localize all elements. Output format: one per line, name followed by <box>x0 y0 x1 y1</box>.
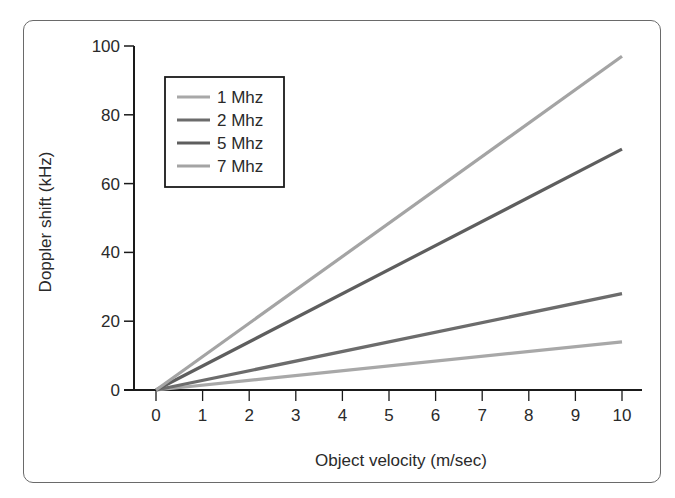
y-axis-label: Doppler shift (kHz) <box>36 152 55 293</box>
y-tick-label: 0 <box>111 381 120 400</box>
x-tick-label: 5 <box>384 406 393 425</box>
legend-label: 5 Mhz <box>217 134 263 153</box>
x-tick-label: 10 <box>613 406 632 425</box>
legend-label: 2 Mhz <box>217 111 263 130</box>
x-axis-label: Object velocity (m/sec) <box>315 451 487 470</box>
x-tick-label: 2 <box>244 406 253 425</box>
y-tick-label: 20 <box>101 312 120 331</box>
legend-label: 7 Mhz <box>217 157 263 176</box>
x-tick-label: 8 <box>524 406 533 425</box>
x-tick-label: 9 <box>571 406 580 425</box>
y-tick-label: 60 <box>101 175 120 194</box>
x-tick-label: 7 <box>477 406 486 425</box>
x-tick-label: 4 <box>338 406 347 425</box>
series-line-1-mhz <box>156 342 622 390</box>
doppler-chart: 020406080100012345678910Object velocity … <box>0 0 675 498</box>
x-tick-label: 1 <box>198 406 207 425</box>
x-tick-label: 3 <box>291 406 300 425</box>
y-tick-label: 80 <box>101 106 120 125</box>
y-tick-label: 40 <box>101 243 120 262</box>
x-tick-label: 0 <box>151 406 160 425</box>
legend-label: 1 Mhz <box>217 88 263 107</box>
y-tick-label: 100 <box>92 37 120 56</box>
x-tick-label: 6 <box>431 406 440 425</box>
